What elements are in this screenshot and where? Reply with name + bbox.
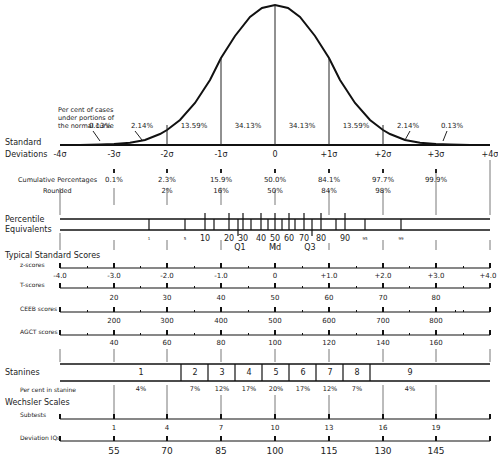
svg-text:4: 4 [165,424,170,432]
svg-text:Md: Md [269,243,281,252]
svg-text:-3.0: -3.0 [107,272,121,280]
ceeb-score-values: 200 300 400 500 600 700 800 [107,317,442,325]
label-percent-in-stanine: Per cent in stanine [20,386,76,393]
percentile-ticks: 1 5 10 20 30 40 50 60 70 80 90 95 99 Q1 … [148,234,404,252]
svg-text:7: 7 [219,424,223,432]
svg-text:800: 800 [429,317,442,325]
svg-text:0: 0 [272,150,277,159]
svg-text:4%: 4% [136,385,146,393]
svg-text:5: 5 [184,236,187,241]
label-cumulative: Cumulative Percentages [18,176,98,184]
label-deviation-iqs: Deviation IQs [20,434,60,441]
svg-text:-4σ: -4σ [53,150,66,159]
subtest-values: 1 4 7 10 13 16 19 [112,424,441,432]
svg-text:70: 70 [379,294,388,302]
svg-text:7%: 7% [352,385,362,393]
svg-text:7: 7 [327,368,332,377]
svg-text:10: 10 [200,234,210,243]
cumulative-values: 0.1% 2.3% 15.9% 50.0% 84.1% 97.7% 99.9% … [105,176,447,195]
svg-text:40: 40 [217,294,226,302]
svg-text:13.59%: 13.59% [343,122,370,130]
svg-text:-2σ: -2σ [160,150,173,159]
svg-text:97.7%: 97.7% [372,176,395,184]
svg-text:300: 300 [160,317,173,325]
svg-text:84%: 84% [321,187,337,195]
svg-text:+3.0: +3.0 [428,272,445,280]
svg-text:13: 13 [325,424,334,432]
svg-text:+2.0: +2.0 [375,272,392,280]
svg-text:8: 8 [354,368,359,377]
svg-text:60: 60 [163,339,172,347]
svg-text:200: 200 [107,317,120,325]
svg-text:50.0%: 50.0% [264,176,287,184]
svg-text:1: 1 [148,236,151,241]
area-percentages: 0.13% 2.14% 13.59% 34.13% 34.13% 13.59% … [89,122,464,130]
svg-text:+4.0: +4.0 [480,272,497,280]
svg-text:20: 20 [110,294,119,302]
svg-text:40: 40 [256,234,266,243]
label-standard-scores: Typical Standard Scores [4,251,100,260]
svg-text:84.1%: 84.1% [318,176,341,184]
svg-text:+2σ: +2σ [375,150,392,159]
svg-text:90: 90 [340,234,350,243]
svg-text:Q1: Q1 [234,243,245,252]
label-wechsler: Wechsler Scales [5,398,70,407]
svg-text:+1.0: +1.0 [321,272,338,280]
svg-text:34.13%: 34.13% [235,122,262,130]
svg-text:2.3%: 2.3% [158,176,176,184]
svg-text:+1σ: +1σ [321,150,338,159]
t-score-values: 20 30 40 50 60 70 80 [110,294,441,302]
svg-text:0.1%: 0.1% [105,176,123,184]
svg-text:13.59%: 13.59% [181,122,208,130]
svg-text:4%: 4% [405,385,415,393]
svg-text:0.13%: 0.13% [441,122,464,130]
svg-text:16: 16 [379,424,388,432]
svg-text:19: 19 [432,424,441,432]
svg-text:60: 60 [325,294,334,302]
svg-text:30: 30 [163,294,172,302]
svg-text:600: 600 [322,317,335,325]
svg-text:80: 80 [432,294,441,302]
svg-text:100: 100 [268,339,281,347]
svg-text:1: 1 [138,368,143,377]
svg-text:50: 50 [271,294,280,302]
svg-text:T-scores: T-scores [19,281,45,288]
svg-text:0: 0 [273,272,277,280]
svg-text:99.9%: 99.9% [425,176,448,184]
svg-text:95: 95 [362,236,368,241]
normal-curve-chart: Per cent of cases under portions of the … [0,0,498,461]
svg-text:34.13%: 34.13% [289,122,316,130]
svg-text:140: 140 [376,339,389,347]
svg-text:50%: 50% [267,187,283,195]
label-stanines: Stanines [5,368,40,377]
svg-text:80: 80 [217,339,226,347]
svg-text:99: 99 [398,236,404,241]
svg-text:100: 100 [266,446,283,456]
svg-text:98%: 98% [375,187,391,195]
svg-text:20: 20 [224,234,234,243]
svg-text:70: 70 [299,234,309,243]
svg-text:-3σ: -3σ [107,150,120,159]
svg-text:CEEB scores: CEEB scores [20,305,57,312]
svg-text:9: 9 [407,368,412,377]
svg-text:55: 55 [108,446,119,456]
svg-text:30: 30 [238,234,248,243]
svg-text:12%: 12% [323,385,337,393]
svg-text:5: 5 [273,368,278,377]
svg-text:+4σ: +4σ [482,150,498,159]
svg-text:15.9%: 15.9% [210,176,233,184]
svg-text:20%: 20% [269,385,283,393]
stanine-values: 1 2 3 4 5 6 7 8 9 [138,368,412,377]
svg-text:2: 2 [192,368,197,377]
svg-text:120: 120 [322,339,335,347]
svg-text:700: 700 [376,317,389,325]
svg-text:-4.0: -4.0 [53,272,67,280]
agct-score-values: 40 60 80 100 120 140 160 [110,339,443,347]
svg-text:4: 4 [246,368,251,377]
svg-text:500: 500 [268,317,281,325]
svg-text:17%: 17% [296,385,310,393]
svg-text:2%: 2% [161,187,172,195]
svg-text:Equivalents: Equivalents [5,225,52,234]
label-percentile: Percentile [5,215,45,224]
svg-text:115: 115 [320,446,337,456]
